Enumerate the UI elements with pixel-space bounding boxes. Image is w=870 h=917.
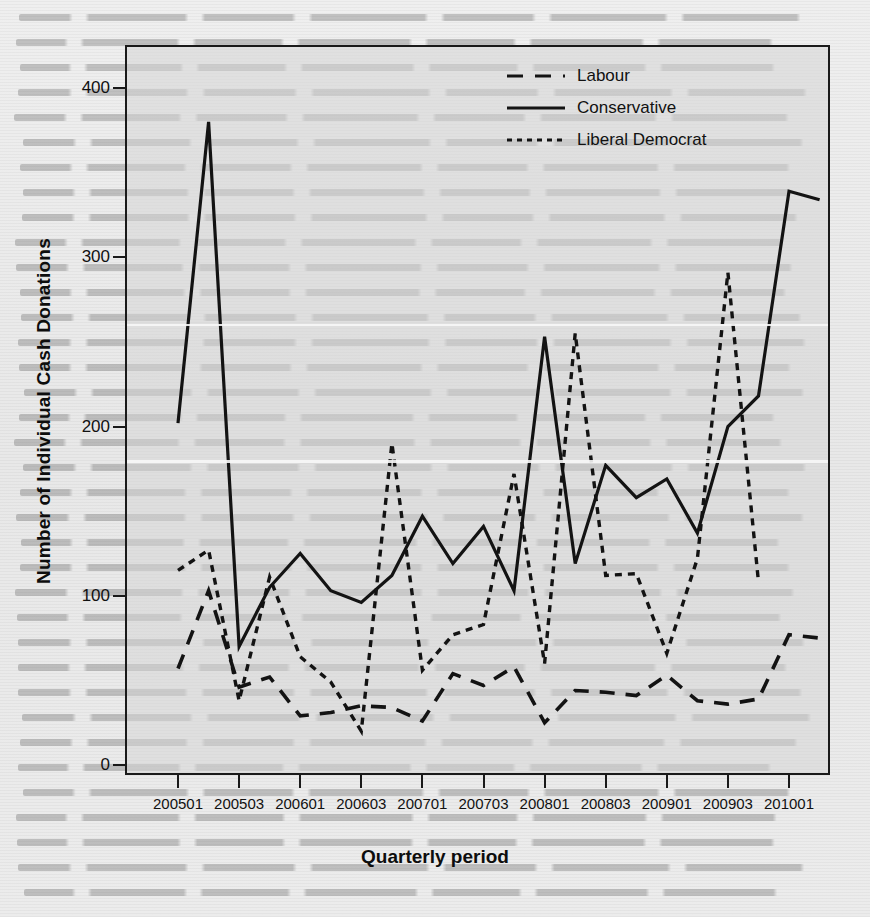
y-tick-mark	[113, 595, 126, 597]
y-tick-mark	[113, 426, 126, 428]
x-tick-label: 200701	[397, 795, 447, 812]
x-tick-label: 200903	[703, 795, 753, 812]
series-conservative	[178, 122, 820, 647]
legend-item-labour: Labour	[505, 66, 706, 86]
x-axis-title: Quarterly period	[0, 846, 870, 868]
dotted-line-key	[505, 133, 567, 147]
legend-item-conservative: Conservative	[505, 98, 706, 118]
legend-label-liberal-democrat: Liberal Democrat	[577, 130, 706, 150]
legend-item-liberal-democrat: Liberal Democrat	[505, 130, 706, 150]
y-axis-title: Number of Individual Cash Donations	[33, 131, 55, 691]
scan-streak	[127, 460, 828, 463]
series-liberal-democrat	[178, 273, 759, 732]
y-tick-label: 400	[60, 78, 110, 98]
scan-streak	[127, 324, 828, 326]
y-tick-label: 200	[60, 417, 110, 437]
x-tick-mark	[666, 775, 668, 788]
x-tick-label: 200503	[214, 795, 264, 812]
legend-label-labour: Labour	[577, 66, 630, 86]
x-tick-label: 200703	[458, 795, 508, 812]
solid-line-key	[505, 101, 567, 115]
series-labour	[178, 591, 820, 723]
line-chart-figure: 0100200300400 Number of Individual Cash …	[0, 0, 870, 917]
x-tick-mark	[788, 775, 790, 788]
x-tick-label: 200601	[275, 795, 325, 812]
x-tick-mark	[299, 775, 301, 788]
x-tick-label: 200901	[642, 795, 692, 812]
y-tick-mark	[113, 256, 126, 258]
x-tick-label: 200801	[520, 795, 570, 812]
chart-series-canvas	[125, 45, 830, 775]
x-tick-mark	[605, 775, 607, 788]
x-tick-mark	[483, 775, 485, 788]
x-tick-label: 200501	[153, 795, 203, 812]
y-tick-label: 0	[60, 755, 110, 775]
dashed-line-key	[505, 69, 567, 83]
x-tick-label: 200603	[336, 795, 386, 812]
legend-label-conservative: Conservative	[577, 98, 676, 118]
chart-legend: Labour Conservative Liberal Democrat	[505, 66, 706, 150]
x-tick-mark	[727, 775, 729, 788]
x-tick-label: 201001	[764, 795, 814, 812]
x-tick-mark	[421, 775, 423, 788]
y-tick-mark	[113, 87, 126, 89]
x-tick-mark	[177, 775, 179, 788]
y-tick-label: 100	[60, 586, 110, 606]
x-tick-label: 200803	[581, 795, 631, 812]
y-tick-mark	[113, 764, 126, 766]
y-tick-label: 300	[60, 247, 110, 267]
x-tick-mark	[360, 775, 362, 788]
x-tick-mark	[544, 775, 546, 788]
x-tick-mark	[238, 775, 240, 788]
